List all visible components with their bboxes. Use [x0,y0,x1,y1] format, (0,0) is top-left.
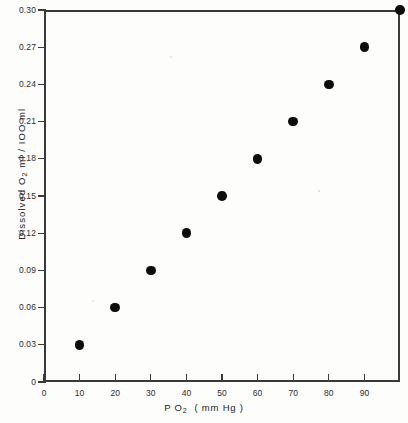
data-point [146,266,156,276]
plot-frame-right [398,10,400,382]
x-axis-tick-label: 50 [217,388,226,398]
x-axis-tick [328,374,329,382]
y-axis-tick [38,195,46,196]
x-axis-tick [115,374,116,382]
y-axis-tick-label: 0 [0,377,36,387]
y-axis-tick [38,84,46,85]
x-axis-tick-label: 70 [288,388,297,398]
y-axis-tick-label: 0.27 [0,42,36,52]
scan-speck [92,300,94,302]
y-axis-tick-label: 0.03 [0,339,36,349]
y-axis-tick [38,270,46,271]
y-axis-title-units: ml / IOO ml [16,108,27,172]
y-axis-title-wrapper: Dissolved O2 ml / IOO ml [16,64,28,284]
x-axis-tick-label: 20 [110,388,119,398]
x-axis-tick [364,374,365,382]
plot-frame-top [44,10,400,12]
x-axis-title-text: P O [164,402,183,413]
x-axis-tick [221,374,222,382]
y-axis-tick [38,121,46,122]
data-point [395,5,405,15]
x-axis-tick-label: 0 [42,388,47,398]
y-axis-title-subscript: 2 [21,172,28,177]
x-axis-tick-label: 40 [182,388,191,398]
x-axis-tick-label: 10 [75,388,84,398]
x-axis-title-units: ( mm Hg ) [188,402,244,413]
y-axis-title-text: Dissolved O [16,177,27,240]
y-axis-tick-label: 0.30 [0,5,36,15]
y-axis-tick [38,307,46,308]
scan-speck [170,56,172,58]
data-point [253,154,263,164]
data-point [75,340,85,350]
data-point [182,228,192,238]
data-point [360,42,370,52]
y-axis-tick [38,233,46,234]
x-axis-tick-label: 30 [146,388,155,398]
y-axis-tick [38,9,46,10]
y-axis-tick [38,344,46,345]
figure-canvas: 00.030.060.090.120.150.180.210.240.270.3… [0,0,408,423]
x-axis-tick [293,374,294,382]
x-axis-tick [257,374,258,382]
x-axis-tick-label: 60 [253,388,262,398]
x-axis-title: P O2 ( mm Hg ) [0,402,408,414]
y-axis-tick [38,381,46,382]
y-axis-title: Dissolved O2 ml / IOO ml [16,64,28,284]
y-axis-tick [38,158,46,159]
x-axis-tick [79,374,80,382]
x-axis-tick [150,374,151,382]
x-axis-tick [43,374,44,382]
y-axis-tick-label: 0.06 [0,302,36,312]
data-point [324,80,334,90]
y-axis-tick [38,47,46,48]
data-point [217,191,227,201]
scan-speck [318,190,320,192]
x-axis-tick [186,374,187,382]
x-axis-tick-label: 80 [324,388,333,398]
x-axis-tick-label: 90 [360,388,369,398]
